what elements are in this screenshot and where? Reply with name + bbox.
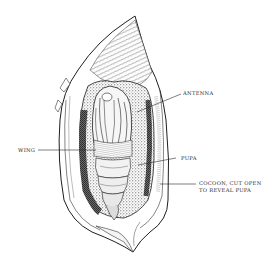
label-cocoon: COCOON, CUT OPEN TO REVEAL PUPA: [199, 180, 262, 193]
label-antenna-text: ANTENNA: [183, 90, 213, 96]
label-wing-text: WING: [18, 147, 35, 153]
label-cocoon-line-2: TO REVEAL PUPA: [199, 187, 262, 194]
label-pupa: PUPA: [181, 155, 197, 162]
label-antenna: ANTENNA: [183, 90, 213, 97]
cocoon-illustration: [0, 0, 277, 271]
label-wing: WING: [18, 147, 35, 154]
label-pupa-text: PUPA: [181, 155, 197, 161]
label-cocoon-line-1: COCOON, CUT OPEN: [199, 180, 262, 187]
